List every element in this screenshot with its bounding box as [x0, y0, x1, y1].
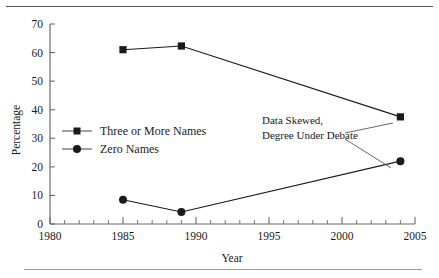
y-tick-label: 10 — [32, 189, 44, 201]
y-axis-tick-labels: 010203040506070 — [32, 18, 44, 230]
line-chart: 010203040506070 198019851990199520002005… — [0, 0, 439, 278]
leader-line-to-zero-names-2004 — [345, 139, 391, 168]
x-axis-major-tick-marks — [50, 217, 415, 224]
series-line — [123, 161, 400, 212]
square-marker-icon — [397, 113, 404, 120]
x-tick-label: 2005 — [404, 230, 427, 242]
x-axis-tick-labels: 198019851990199520002005 — [39, 230, 427, 242]
y-tick-label: 60 — [32, 47, 44, 59]
square-marker-icon — [178, 42, 185, 49]
y-tick-label: 70 — [32, 18, 44, 30]
y-tick-label: 50 — [32, 75, 44, 87]
y-axis-tick-marks — [50, 24, 55, 224]
legend-item-zero-names: Zero Names — [62, 142, 159, 156]
y-tick-label: 40 — [32, 104, 44, 116]
x-tick-label: 1980 — [39, 230, 62, 242]
legend-circle-marker-icon — [73, 145, 81, 153]
legend-item-three-or-more-names: Three or More Names — [62, 124, 207, 138]
y-tick-label: 30 — [32, 132, 44, 144]
circle-marker-icon — [396, 157, 404, 165]
circle-marker-icon — [119, 196, 127, 204]
x-tick-label: 1990 — [185, 230, 208, 242]
x-tick-label: 2000 — [331, 230, 354, 242]
legend-label-three-or-more-names: Three or More Names — [100, 124, 207, 138]
x-tick-label: 1995 — [258, 230, 281, 242]
series-line — [123, 46, 400, 117]
annotation-text: Data Skewed, Degree Under Debate — [262, 114, 358, 141]
x-axis-title: Year — [221, 252, 242, 264]
x-tick-label: 1985 — [112, 230, 135, 242]
chart-legend: Three or More Names Zero Names — [62, 124, 207, 156]
circle-marker-icon — [177, 208, 185, 216]
y-tick-label: 0 — [37, 218, 43, 230]
legend-label-zero-names: Zero Names — [100, 142, 159, 156]
y-tick-label: 20 — [32, 161, 44, 173]
figure-container: 010203040506070 198019851990199520002005… — [0, 0, 439, 278]
annotation-line-1: Data Skewed, — [262, 114, 323, 126]
annotation-line-2: Degree Under Debate — [262, 129, 358, 141]
y-axis-title: Percentage — [10, 105, 23, 155]
legend-square-marker-icon — [74, 128, 81, 135]
data-series-zero-names — [119, 157, 404, 216]
data-series-three-or-more-names — [119, 42, 404, 120]
square-marker-icon — [119, 46, 126, 53]
